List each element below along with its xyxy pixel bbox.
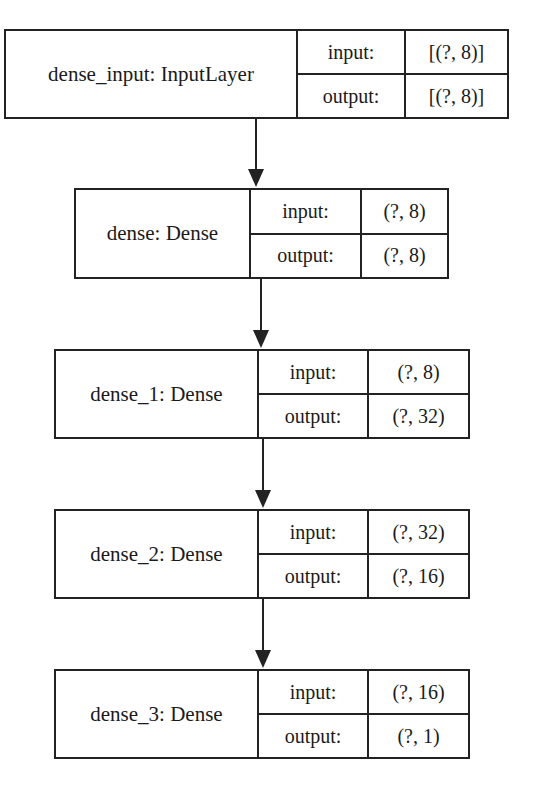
arrowhead-icon bbox=[253, 330, 269, 348]
input-label: input: bbox=[259, 671, 367, 715]
input-shape: (?, 8) bbox=[362, 190, 447, 235]
input-shape: (?, 8) bbox=[369, 351, 468, 395]
arrowhead-icon bbox=[248, 169, 264, 187]
input-label: input: bbox=[298, 31, 404, 75]
node-name: dense_2: Dense bbox=[56, 511, 259, 597]
input-label: input: bbox=[259, 511, 367, 555]
input-shape: (?, 32) bbox=[369, 511, 468, 555]
output-shape: (?, 16) bbox=[369, 555, 468, 597]
output-shape: (?, 1) bbox=[369, 715, 468, 757]
node-name: dense_input: InputLayer bbox=[6, 31, 298, 117]
node-dense-2: dense_2: Dense input: output: (?, 32) (?… bbox=[54, 509, 470, 599]
output-label: output: bbox=[298, 75, 404, 117]
node-name: dense_1: Dense bbox=[56, 351, 259, 437]
node-name: dense: Dense bbox=[76, 190, 251, 277]
input-label: input: bbox=[251, 190, 360, 235]
input-shape: [(?, 8)] bbox=[406, 31, 507, 75]
edge-line bbox=[255, 119, 257, 171]
output-shape: (?, 32) bbox=[369, 395, 468, 437]
arrowhead-icon bbox=[255, 490, 271, 508]
input-label: input: bbox=[259, 351, 367, 395]
output-shape: (?, 8) bbox=[362, 235, 447, 278]
arrowhead-icon bbox=[255, 650, 271, 668]
node-name: dense_3: Dense bbox=[56, 671, 259, 757]
output-label: output: bbox=[251, 235, 360, 278]
input-shape: (?, 16) bbox=[369, 671, 468, 715]
output-label: output: bbox=[259, 715, 367, 757]
node-dense-1: dense_1: Dense input: output: (?, 8) (?,… bbox=[54, 349, 470, 439]
edge-line bbox=[262, 599, 264, 652]
output-label: output: bbox=[259, 555, 367, 597]
output-label: output: bbox=[259, 395, 367, 437]
node-dense-3: dense_3: Dense input: output: (?, 16) (?… bbox=[54, 669, 470, 759]
edge-line bbox=[260, 279, 262, 332]
edge-line bbox=[262, 439, 264, 492]
node-dense-input: dense_input: InputLayer input: output: [… bbox=[4, 29, 509, 119]
node-dense: dense: Dense input: output: (?, 8) (?, 8… bbox=[74, 188, 449, 279]
output-shape: [(?, 8)] bbox=[406, 75, 507, 117]
